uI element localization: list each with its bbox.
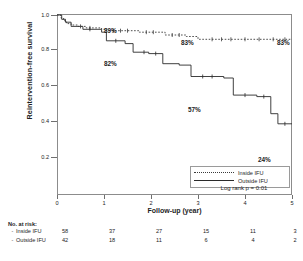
annotation-57-percent: 57% <box>188 106 201 113</box>
risk-value-outside-1: 18 <box>103 237 121 243</box>
risk-value-outside-2: 11 <box>150 237 168 243</box>
x-tick-mark-0 <box>57 195 58 199</box>
row-dash-icon: - <box>10 228 15 234</box>
legend-label-inside-ifu: Inside IFU <box>238 170 264 176</box>
risk-value-inside-0: 58 <box>56 228 74 234</box>
risk-table-row-inside-ifu: - Inside IFU 58 37 27 15 11 3 <box>8 228 298 237</box>
x-tick-mark-4 <box>245 195 246 199</box>
x-tick-label-2: 2 <box>143 200 159 206</box>
y-tick-label-5: 0.2 <box>27 154 49 160</box>
x-tick-label-0: 0 <box>49 200 65 206</box>
x-tick-label-5: 5 <box>284 200 300 206</box>
dotted-line-icon <box>194 172 234 173</box>
x-tick-mark-2 <box>151 195 152 199</box>
y-tick-label-4: 0.4 <box>27 118 49 124</box>
row-dash-icon: - <box>10 237 15 243</box>
risk-table-row-outside-ifu: - Outside IFU 42 18 11 6 4 2 <box>8 237 298 246</box>
y-tick-label-3: 0.6 <box>27 82 49 88</box>
risk-value-outside-5: 2 <box>286 237 303 243</box>
legend-item-inside-ifu: Inside IFU <box>194 169 286 176</box>
annotation-83-percent-end: 83% <box>277 39 290 46</box>
y-axis-label: Reintervention-free survival <box>25 0 34 156</box>
log-rank-statistic: Log rank p = 0.01 <box>198 185 290 191</box>
legend-label-outside-ifu: Outside IFU <box>238 178 268 184</box>
x-tick-label-4: 4 <box>237 200 253 206</box>
risk-table: No. at risk: - Inside IFU 58 37 27 15 11… <box>8 221 298 246</box>
risk-value-outside-4: 4 <box>244 237 262 243</box>
x-tick-mark-1 <box>104 195 105 199</box>
x-tick-mark-5 <box>292 195 293 199</box>
kaplan-meier-figure: Reintervention-free survival 1.0 0.8 0.6… <box>0 0 303 261</box>
annotation-24-percent: 24% <box>258 156 271 163</box>
x-axis-label: Follow-up (year) <box>57 207 292 214</box>
annotation-82-percent: 82% <box>104 60 117 67</box>
curve-inside-ifu <box>57 15 292 39</box>
risk-value-inside-2: 27 <box>150 228 168 234</box>
legend-item-outside-ifu: Outside IFU <box>194 177 286 184</box>
risk-value-outside-0: 42 <box>56 237 74 243</box>
x-tick-label-3: 3 <box>190 200 206 206</box>
risk-value-inside-3: 15 <box>197 228 215 234</box>
x-tick-label-1: 1 <box>96 200 112 206</box>
y-tick-label-1: 1.0 <box>27 12 49 18</box>
risk-value-inside-1: 37 <box>103 228 121 234</box>
annotation-83-percent-mid: 83% <box>181 39 194 46</box>
curve-outside-ifu <box>57 15 292 124</box>
x-tick-mark-3 <box>198 195 199 199</box>
risk-table-title: No. at risk: <box>8 221 298 227</box>
risk-value-inside-5: 3 <box>286 228 303 234</box>
risk-value-inside-4: 11 <box>244 228 262 234</box>
annotation-89-percent: 89% <box>104 27 117 34</box>
risk-value-outside-3: 6 <box>197 237 215 243</box>
y-tick-label-2: 0.8 <box>27 46 49 52</box>
solid-line-icon <box>194 180 234 181</box>
